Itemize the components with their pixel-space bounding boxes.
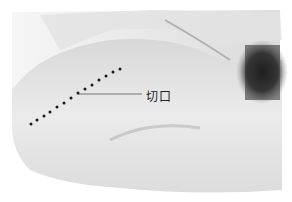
arm-incision-figure: 切口 (0, 0, 292, 202)
incision-label: 切口 (146, 87, 172, 104)
